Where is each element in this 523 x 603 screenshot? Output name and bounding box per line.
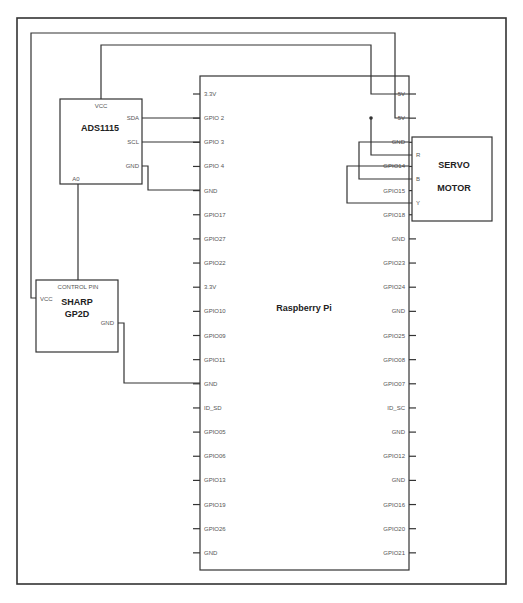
raspberry-pi-title: Raspberry Pi bbox=[276, 303, 332, 313]
servo-motor: R B Y SERVO MOTOR bbox=[412, 137, 492, 221]
raspberry-pi-box bbox=[200, 76, 409, 570]
ads1115-sda-label: SDA bbox=[127, 115, 139, 121]
rpi-right-pin-label: GND bbox=[392, 308, 406, 314]
servo-r-label: R bbox=[416, 152, 421, 158]
rpi-left-pin-label: GPIO 2 bbox=[204, 115, 225, 121]
rpi-left-pin-label: GPIO10 bbox=[204, 308, 226, 314]
rpi-left-pin-label: GPIO09 bbox=[204, 333, 226, 339]
rpi-right-pin-label: GPIO07 bbox=[383, 381, 405, 387]
rpi-right-pin-label: GPIO08 bbox=[383, 357, 405, 363]
rpi-left-pin-label: 3.3V bbox=[204, 91, 216, 97]
wire-sharp-gnd bbox=[118, 323, 200, 383]
ads1115-vcc-label: VCC bbox=[95, 103, 108, 109]
rpi-left-pin-label: GPIO26 bbox=[204, 526, 226, 532]
ads1115-module: VCC ADS1115 SDA SCL GND A0 bbox=[60, 99, 142, 184]
rpi-left-pin-label: GND bbox=[204, 550, 218, 556]
rpi-left-pin-label: GPIO17 bbox=[204, 212, 226, 218]
wire-ads-gnd bbox=[142, 166, 200, 190]
rpi-left-pin-label: GPIO22 bbox=[204, 260, 226, 266]
rpi-right-pin-label: GPIO25 bbox=[383, 333, 405, 339]
rpi-right-pin-label: GND bbox=[392, 236, 406, 242]
servo-title-1: SERVO bbox=[438, 160, 469, 170]
ads1115-a0-label: A0 bbox=[72, 176, 80, 182]
sharp-gnd-label: GND bbox=[101, 320, 115, 326]
rpi-right-pin-label: GPIO21 bbox=[383, 550, 405, 556]
rpi-right-pin-label: GND bbox=[392, 429, 406, 435]
raspberry-pi: Raspberry Pi 3.3VGPIO 2GPIO 3GPIO 4GNDGP… bbox=[193, 76, 416, 570]
servo-y-label: Y bbox=[416, 200, 420, 206]
rpi-right-pin-label: GPIO15 bbox=[383, 188, 405, 194]
sharp-control-pin-label: CONTROL PIN bbox=[58, 284, 99, 290]
ads1115-gnd-label: GND bbox=[126, 163, 140, 169]
rpi-left-pin-label: GPIO 4 bbox=[204, 163, 225, 169]
rpi-left-pin-label: 3.3V bbox=[204, 284, 216, 290]
sharp-vcc-label: VCC bbox=[40, 296, 53, 302]
rpi-left-pin-label: GPIO06 bbox=[204, 453, 226, 459]
rpi-right-pin-label: GPIO18 bbox=[383, 212, 405, 218]
wiring-diagram: Raspberry Pi 3.3VGPIO 2GPIO 3GPIO 4GNDGP… bbox=[0, 0, 523, 603]
rpi-left-pin-label: GPIO11 bbox=[204, 357, 226, 363]
rpi-left-pin-label: GPIO27 bbox=[204, 236, 226, 242]
rpi-right-pin-label: ID_SC bbox=[387, 405, 405, 411]
rpi-left-pin-label: GPIO 3 bbox=[204, 139, 225, 145]
junction-dot bbox=[369, 116, 373, 120]
rpi-left-pin-label: GPIO19 bbox=[204, 502, 226, 508]
rpi-left-pin-label: GND bbox=[204, 188, 218, 194]
rpi-right-pin-label: GPIO12 bbox=[383, 453, 405, 459]
servo-b-label: B bbox=[416, 176, 420, 182]
rpi-right-pin-label: GPIO20 bbox=[383, 526, 405, 532]
sharp-title-2: GP2D bbox=[65, 309, 90, 319]
sharp-title-1: SHARP bbox=[61, 297, 93, 307]
rpi-left-pin-label: GPIO05 bbox=[204, 429, 226, 435]
servo-title-2: MOTOR bbox=[437, 183, 471, 193]
ads1115-scl-label: SCL bbox=[127, 139, 139, 145]
rpi-left-pin-label: GPIO13 bbox=[204, 477, 226, 483]
rpi-left-pin-label: GND bbox=[204, 381, 218, 387]
rpi-right-pin-label: GPIO16 bbox=[383, 502, 405, 508]
servo-box bbox=[412, 137, 492, 221]
rpi-left-pin-label: ID_SD bbox=[204, 405, 222, 411]
rpi-right-pin-label: GND bbox=[392, 477, 406, 483]
sharp-gp2d-sensor: CONTROL PIN VCC SHARP GP2D GND bbox=[36, 280, 118, 352]
rpi-right-pin-label: GPIO24 bbox=[383, 284, 405, 290]
ads1115-title: ADS1115 bbox=[81, 123, 119, 133]
rpi-right-pin-label: GPIO23 bbox=[383, 260, 405, 266]
